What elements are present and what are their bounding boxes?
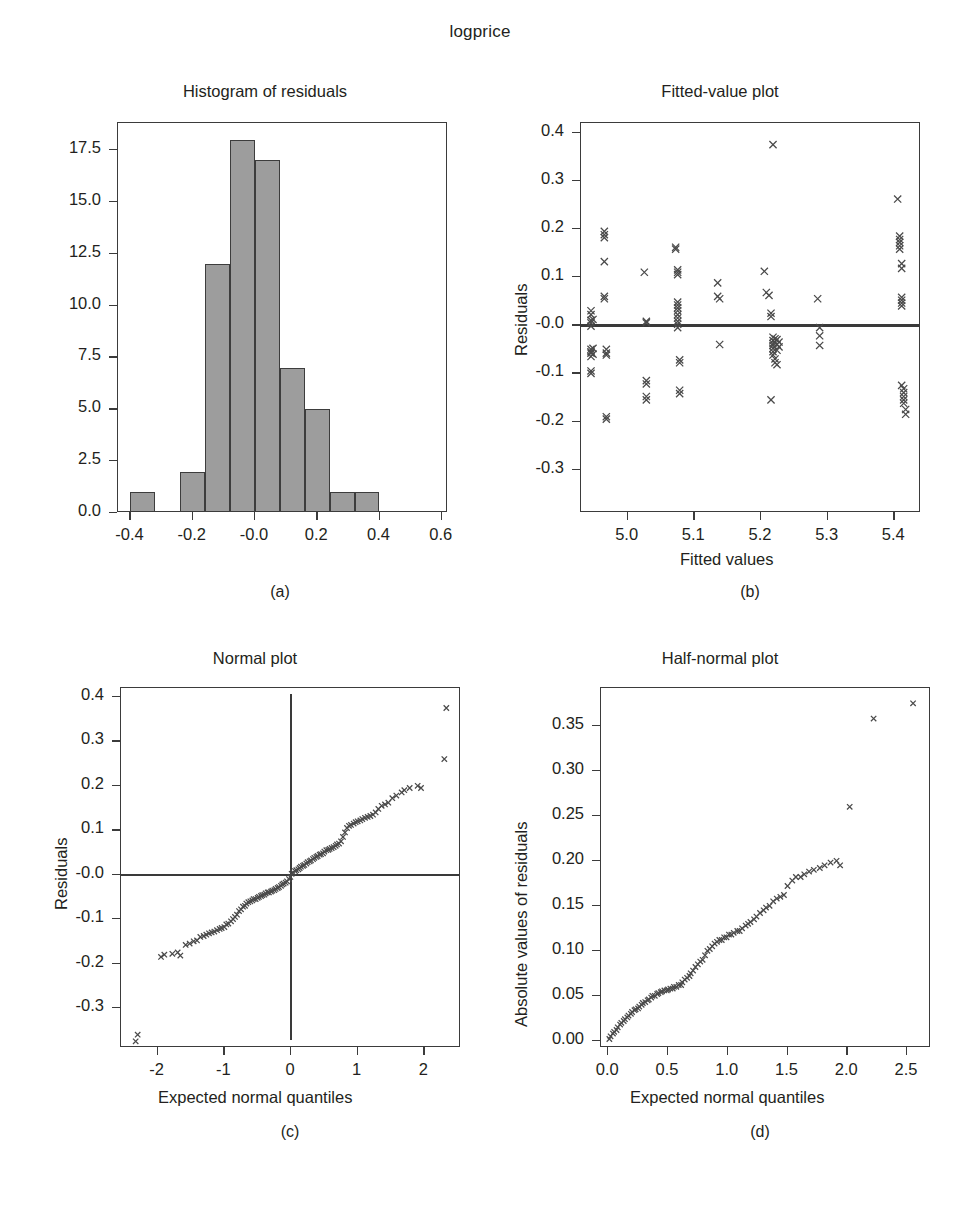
panel-d-caption: (d)	[720, 1123, 800, 1141]
panel-d-y5-tick-label: 0.25	[504, 804, 584, 823]
panel-a-y2-tick-label: 5.0	[21, 397, 101, 416]
panel-a-caption: (a)	[240, 583, 320, 601]
panel-d-x4-tick-mark	[846, 1047, 847, 1055]
panel-a-title: Histogram of residuals	[115, 82, 415, 101]
panel-b-title: Fitted-value plot	[560, 82, 880, 101]
panel-c-title: Normal plot	[125, 649, 385, 668]
box-c-points	[121, 688, 460, 1047]
panel-c-y6-tick-mark	[112, 740, 120, 741]
panel-c-y3-tick-label: -0.0	[24, 863, 104, 882]
panel-half-normal-plot: Half-normal plot Expected normal quantil…	[490, 645, 950, 1185]
panel-c-y4-tick-label: 0.1	[24, 818, 104, 837]
panel-d-y6-tick-mark	[592, 770, 600, 771]
box-d-points	[601, 688, 930, 1047]
panel-c-x4-tick-label: 2	[383, 1060, 463, 1079]
panel-c-y5-tick-mark	[112, 785, 120, 786]
panel-a-y5-tick-mark	[109, 253, 117, 254]
panel-b-y1-tick-label: -0.2	[484, 410, 564, 429]
panel-d-y4-tick-label: 0.20	[504, 849, 584, 868]
histogram-bar	[255, 160, 280, 512]
panel-c-y7-tick-mark	[112, 696, 120, 697]
panel-a-y1-tick-label: 2.5	[21, 449, 101, 468]
panel-a-y6-tick-label: 15.0	[21, 190, 101, 209]
panel-d-y7-tick-label: 0.35	[504, 714, 584, 733]
panel-a-y6-tick-mark	[109, 201, 117, 202]
panel-a-y7-tick-label: 17.5	[21, 138, 101, 157]
panel-d-y0-tick-mark	[592, 1040, 600, 1041]
panel-d-plot-area	[600, 687, 930, 1047]
panel-c-y5-tick-label: 0.2	[24, 774, 104, 793]
panel-a-y4-tick-label: 10.0	[21, 294, 101, 313]
panel-b-y5-tick-mark	[572, 228, 580, 229]
histogram-bar	[130, 492, 155, 512]
panel-b-plot-area	[580, 122, 920, 512]
panel-a-y4-tick-mark	[109, 305, 117, 306]
panel-d-x0-tick-mark	[607, 1047, 608, 1055]
panel-d-y6-tick-label: 0.30	[504, 759, 584, 778]
panel-a-x2-tick-mark	[254, 512, 255, 520]
panel-d-y7-tick-mark	[592, 725, 600, 726]
box-b-points	[581, 123, 920, 512]
panel-d-y1-tick-mark	[592, 995, 600, 996]
panel-b-x0-tick-mark	[627, 512, 628, 520]
panel-c-x0-tick-mark	[157, 1047, 158, 1055]
panel-d-x3-tick-mark	[787, 1047, 788, 1055]
panel-c-xaxis-title: Expected normal quantiles	[158, 1088, 352, 1107]
panel-b-caption: (b)	[710, 583, 790, 601]
panel-d-y5-tick-mark	[592, 815, 600, 816]
panel-b-y4-tick-label: 0.1	[484, 265, 564, 284]
figure-title: logprice	[0, 22, 960, 42]
panel-b-y2-tick-label: -0.1	[484, 361, 564, 380]
panel-b-y7-tick-label: 0.4	[484, 121, 564, 140]
panel-b-y4-tick-mark	[572, 276, 580, 277]
panel-normal-plot: Normal plot Expected normal quantiles Re…	[30, 645, 480, 1185]
panel-c-x2-tick-mark	[290, 1047, 291, 1055]
histogram-bar	[205, 264, 230, 512]
panel-a-y5-tick-label: 12.5	[21, 242, 101, 261]
histogram-bar	[180, 472, 205, 513]
panel-c-y1-tick-mark	[112, 963, 120, 964]
panel-c-x3-tick-mark	[357, 1047, 358, 1055]
histogram-bar	[355, 492, 380, 512]
panel-d-y4-tick-mark	[592, 860, 600, 861]
panel-c-y1-tick-label: -0.2	[24, 952, 104, 971]
panel-histogram-of-residuals: Histogram of residuals (a) -0.4-0.2-0.00…	[30, 78, 460, 598]
panel-c-x4-tick-mark	[423, 1047, 424, 1055]
panel-d-x5-tick-mark	[906, 1047, 907, 1055]
panel-b-y6-tick-mark	[572, 180, 580, 181]
panel-c-y7-tick-label: 0.4	[24, 685, 104, 704]
panel-d-x1-tick-mark	[667, 1047, 668, 1055]
panel-c-y0-tick-label: -0.3	[24, 996, 104, 1015]
panel-b-x3-tick-mark	[827, 512, 828, 520]
panel-d-y2-tick-mark	[592, 950, 600, 951]
panel-d-xaxis-title: Expected normal quantiles	[630, 1088, 824, 1107]
panel-b-y7-tick-mark	[572, 132, 580, 133]
panel-c-plot-area	[120, 687, 460, 1047]
panel-b-y0-tick-label: -0.3	[484, 458, 564, 477]
panel-b-y6-tick-label: 0.3	[484, 169, 564, 188]
panel-a-x5-tick-mark	[441, 512, 442, 520]
panel-b-y2-tick-mark	[572, 372, 580, 373]
panel-c-y0-tick-mark	[112, 1007, 120, 1008]
panel-c-y3-tick-mark	[112, 874, 120, 875]
panel-b-x2-tick-mark	[760, 512, 761, 520]
panel-c-y2-tick-label: -0.1	[24, 907, 104, 926]
panel-b-xaxis-title: Fitted values	[680, 550, 774, 569]
panel-c-y4-tick-mark	[112, 829, 120, 830]
panel-a-y0-tick-mark	[109, 512, 117, 513]
panel-b-x4-tick-label: 5.4	[853, 525, 933, 544]
panel-a-y0-tick-label: 0.0	[21, 501, 101, 520]
panel-d-y3-tick-label: 0.15	[504, 894, 584, 913]
panel-d-y3-tick-mark	[592, 905, 600, 906]
panel-a-x5-tick-label: 0.6	[401, 525, 481, 544]
panel-d-title: Half-normal plot	[570, 649, 870, 668]
panel-a-y3-tick-label: 7.5	[21, 345, 101, 364]
panel-a-x4-tick-mark	[379, 512, 380, 520]
panel-b-x4-tick-mark	[893, 512, 894, 520]
histogram-bar	[280, 368, 305, 512]
panel-c-x1-tick-mark	[223, 1047, 224, 1055]
panel-d-x5-tick-label: 2.5	[866, 1060, 946, 1079]
panel-b-y0-tick-mark	[572, 469, 580, 470]
panel-c-caption: (c)	[250, 1123, 330, 1141]
panel-b-y1-tick-mark	[572, 421, 580, 422]
